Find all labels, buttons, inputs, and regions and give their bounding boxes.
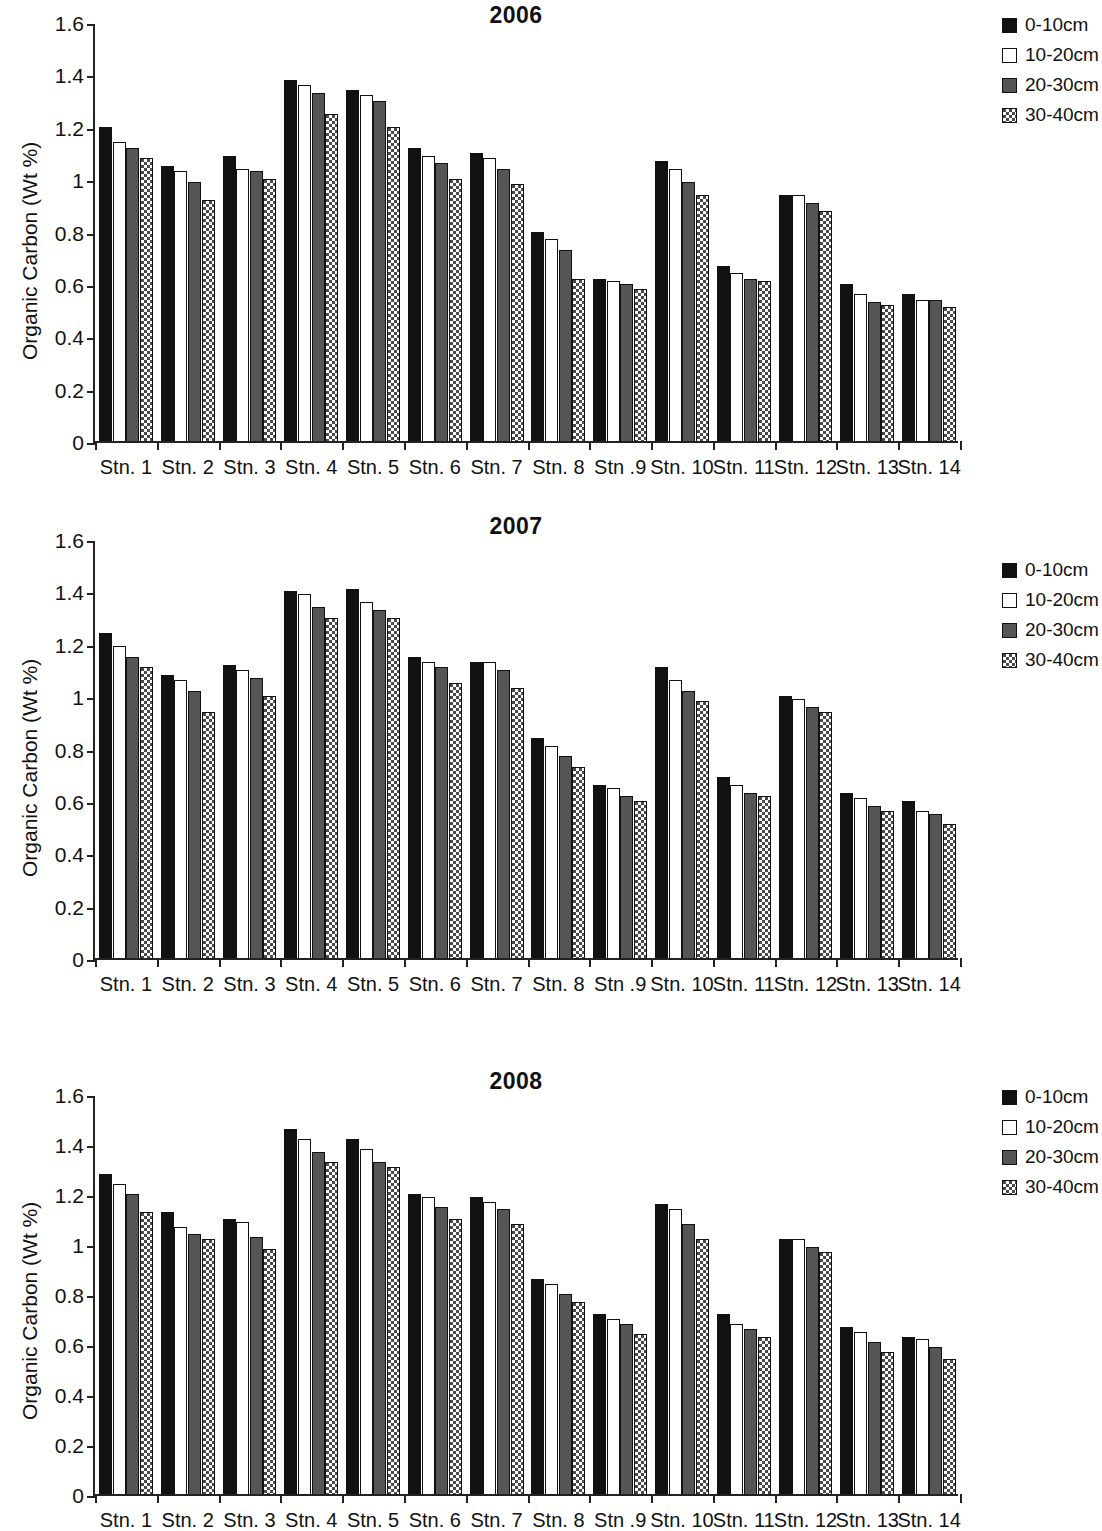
bar-2007-g2-20-30cm [188, 691, 201, 958]
y-tick-label: 1.2 [55, 117, 95, 141]
x-axis-separator [528, 1494, 530, 1503]
bar-2008-g3-10-20cm [236, 1222, 249, 1495]
plot-area: 00.20.40.60.811.21.41.6Stn. 1Stn. 2Stn. … [93, 24, 958, 443]
x-tick-label: Stn. 4 [285, 456, 337, 479]
x-axis-separator [528, 958, 530, 967]
bar-2008-g10-30-40cm [696, 1239, 709, 1494]
bar-2006-g11-20-30cm [744, 279, 757, 441]
bar-2008-g3-30-40cm [263, 1249, 276, 1494]
legend-item-0-10cm: 0-10cm [1002, 555, 1099, 585]
y-tick-label: 0.8 [55, 1284, 95, 1308]
x-axis-separator [775, 958, 777, 967]
bar-2007-g10-30-40cm [696, 701, 709, 958]
x-tick-label: Stn. 8 [532, 456, 584, 479]
x-tick-label: Stn. 14 [897, 1509, 960, 1531]
bar-2007-g1-30-40cm [140, 667, 153, 958]
x-tick-label: Stn. 5 [347, 973, 399, 996]
y-tick-label: 0 [72, 948, 95, 972]
bar-2007-g1-0-10cm [99, 633, 112, 958]
bar-2008-g2-30-40cm [202, 1239, 215, 1494]
bar-2007-g11-0-10cm [717, 777, 730, 958]
x-tick-label: Stn. 2 [162, 973, 214, 996]
y-tick-label: 1.4 [55, 581, 95, 605]
x-tick-label: Stn. 2 [162, 456, 214, 479]
y-axis-label: Organic Carbon (Wt %) [18, 1202, 42, 1420]
bar-2007-g9-30-40cm [634, 801, 647, 958]
bar-2006-g3-0-10cm [223, 156, 236, 441]
x-tick-label: Stn. 5 [347, 1509, 399, 1531]
x-axis-separator [960, 441, 962, 450]
x-axis-separator [157, 1494, 159, 1503]
x-tick-label: Stn. 6 [409, 973, 461, 996]
bar-2008-g9-10-20cm [607, 1319, 620, 1494]
y-tick-label: 1.6 [55, 529, 95, 553]
bar-2007-g7-0-10cm [470, 662, 483, 958]
x-axis-separator [466, 958, 468, 967]
bar-2006-g10-20-30cm [682, 182, 695, 441]
bar-2006-g13-0-10cm [840, 284, 853, 441]
x-axis-separator [589, 1494, 591, 1503]
x-tick-label: Stn. 4 [285, 973, 337, 996]
bar-2007-g8-0-10cm [531, 738, 544, 958]
bar-2006-g5-0-10cm [346, 90, 359, 441]
bar-2008-g5-10-20cm [360, 1149, 373, 1494]
bar-2007-g9-20-30cm [620, 796, 633, 958]
bar-2007-g10-10-20cm [669, 680, 682, 958]
bar-2008-g13-0-10cm [840, 1327, 853, 1495]
chart-title-text: 2007 [489, 513, 542, 539]
legend-swatch-icon [1002, 1150, 1017, 1165]
bar-2008-g6-30-40cm [449, 1219, 462, 1494]
legend-item-10-20cm: 10-20cm [1002, 585, 1099, 615]
bar-2008-g6-10-20cm [422, 1197, 435, 1495]
bar-2006-g14-30-40cm [943, 307, 956, 441]
legend-swatch-icon [1002, 1180, 1017, 1195]
bar-2008-g11-30-40cm [758, 1337, 771, 1495]
bar-2007-g12-30-40cm [819, 712, 832, 958]
bar-2007-g4-10-20cm [298, 594, 311, 958]
bar-2008-g11-20-30cm [744, 1329, 757, 1494]
bar-2007-g3-10-20cm [236, 670, 249, 958]
bar-2006-g14-0-10cm [902, 294, 915, 441]
y-tick-label: 0 [72, 1484, 95, 1508]
y-tick-label: 1.2 [55, 1184, 95, 1208]
x-tick-label: Stn. 1 [100, 456, 152, 479]
bar-2006-g4-30-40cm [325, 114, 338, 441]
bar-2008-g12-20-30cm [806, 1247, 819, 1495]
bar-2007-g12-20-30cm [806, 707, 819, 958]
bar-2007-g10-20-30cm [682, 691, 695, 958]
bar-2008-g7-10-20cm [483, 1202, 496, 1495]
legend-item-label: 30-40cm [1025, 104, 1099, 126]
x-axis-separator [589, 441, 591, 450]
legend-swatch-icon [1002, 593, 1017, 608]
bar-2008-g4-30-40cm [325, 1162, 338, 1495]
x-axis-separator [898, 958, 900, 967]
bar-2006-g2-20-30cm [188, 182, 201, 441]
x-axis-separator [219, 958, 221, 967]
x-axis-separator [95, 1494, 97, 1503]
bar-2006-g8-10-20cm [545, 239, 558, 441]
bar-2006-g5-10-20cm [360, 95, 373, 441]
y-axis-label: Organic Carbon (Wt %) [18, 142, 42, 360]
x-tick-label: Stn. 11 [713, 1509, 775, 1531]
x-axis-separator [713, 1494, 715, 1503]
bar-2007-g8-30-40cm [572, 767, 585, 958]
legend-item-label: 10-20cm [1025, 589, 1099, 611]
y-tick-label: 0.6 [55, 1334, 95, 1358]
bar-2008-g8-30-40cm [572, 1302, 585, 1495]
bar-2008-g4-10-20cm [298, 1139, 311, 1494]
legend-item-label: 30-40cm [1025, 1176, 1099, 1198]
x-tick-label: Stn. 11 [713, 973, 775, 996]
bar-2006-g2-30-40cm [202, 200, 215, 441]
bar-2006-g6-10-20cm [422, 156, 435, 441]
y-tick-label: 1 [72, 686, 95, 710]
bar-2006-g10-30-40cm [696, 195, 709, 441]
bar-2008-g1-0-10cm [99, 1174, 112, 1494]
legend-item-20-30cm: 20-30cm [1002, 70, 1099, 100]
legend-swatch-icon [1002, 623, 1017, 638]
bar-2007-g3-0-10cm [223, 665, 236, 958]
x-axis-separator [589, 958, 591, 967]
x-axis-separator [836, 441, 838, 450]
y-tick-label: 0.4 [55, 843, 95, 867]
y-tick-label: 1.4 [55, 64, 95, 88]
bar-2008-g14-30-40cm [943, 1359, 956, 1494]
